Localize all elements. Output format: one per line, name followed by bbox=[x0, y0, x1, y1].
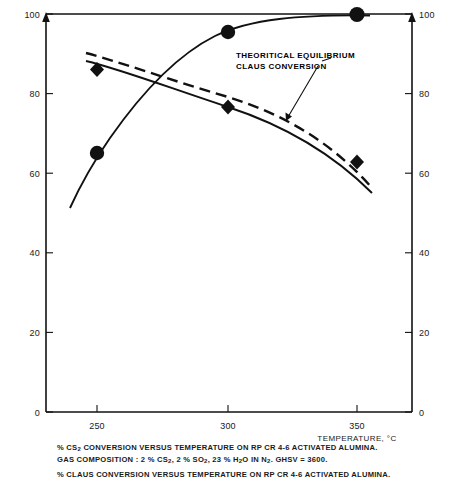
x-axis-ticks bbox=[97, 405, 357, 412]
caption-line-3: % CLAUS CONVERSION VERSUS TEMPERATURE ON… bbox=[57, 470, 437, 481]
caption-line-2-part4: O IN N bbox=[242, 455, 267, 464]
caption-line-2-part2: , 2 % SO bbox=[172, 455, 204, 464]
caption-line-1-rest: CONVERSION VERSUS TEMPERATURE ON RP CR 4… bbox=[81, 443, 378, 452]
annotation-line-1: THEORITICAL EQUILIBRIUM bbox=[236, 51, 355, 60]
y-tick-right-0: 0 bbox=[419, 408, 424, 418]
x-axis-title: TEMPERATURE, °C bbox=[317, 434, 396, 443]
caption-line-2-part5: . GHSV = 3600. bbox=[271, 455, 328, 464]
data-point-diamond-250 bbox=[90, 62, 104, 77]
y-tick-right-20: 20 bbox=[419, 328, 429, 338]
x-tick-250: 250 bbox=[89, 421, 105, 431]
y-tick-left-20: 20 bbox=[30, 328, 40, 338]
caption-line-2-part3: , 23 % H bbox=[208, 455, 239, 464]
y-tick-right-80: 80 bbox=[419, 89, 429, 99]
caption-line-2: GAS COMPOSITION : 2 % CS2, 2 % SO2, 23 %… bbox=[57, 455, 437, 467]
figure-container: 100 80 60 40 20 0 100 80 60 40 20 0 250 … bbox=[0, 0, 450, 485]
y-tick-left-60: 60 bbox=[30, 169, 40, 179]
cs2-conversion-curve bbox=[70, 15, 370, 208]
data-point-diamond-300 bbox=[221, 100, 235, 115]
caption-line-1: % CS2 CONVERSION VERSUS TEMPERATURE ON R… bbox=[57, 443, 437, 455]
right-axis-ticks bbox=[405, 14, 412, 412]
data-point-circle-250 bbox=[90, 146, 104, 160]
data-point-circle-350 bbox=[349, 7, 364, 22]
caption-line-2-part1: GAS COMPOSITION : 2 % CS bbox=[57, 455, 168, 464]
y-tick-left-100: 100 bbox=[24, 10, 40, 20]
data-point-circle-300 bbox=[221, 25, 235, 39]
x-tick-350: 350 bbox=[349, 421, 365, 431]
y-tick-left-0: 0 bbox=[35, 408, 40, 418]
left-axis-ticks bbox=[46, 14, 53, 412]
caption-line-1-prefix: % CS bbox=[57, 443, 77, 452]
conversion-vs-temperature-chart: 100 80 60 40 20 0 100 80 60 40 20 0 250 … bbox=[0, 0, 450, 485]
y-tick-right-40: 40 bbox=[419, 248, 429, 258]
y-tick-left-40: 40 bbox=[30, 248, 40, 258]
leader-arrowhead bbox=[286, 113, 293, 122]
cs2-data-markers bbox=[90, 7, 365, 160]
figure-caption: % CS2 CONVERSION VERSUS TEMPERATURE ON R… bbox=[57, 443, 437, 481]
y-tick-right-100: 100 bbox=[419, 10, 435, 20]
y-tick-left-80: 80 bbox=[30, 89, 40, 99]
claus-conversion-curve bbox=[86, 61, 372, 193]
y-tick-right-60: 60 bbox=[419, 169, 429, 179]
annotation-line-2: CLAUS CONVERSION bbox=[236, 62, 327, 71]
x-tick-300: 300 bbox=[220, 421, 236, 431]
